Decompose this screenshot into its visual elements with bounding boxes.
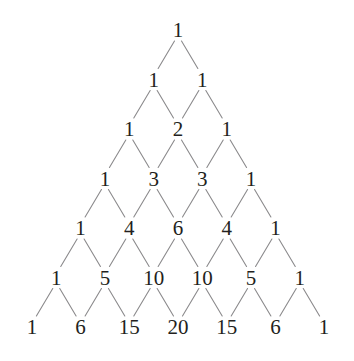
- pascal-number-r3-c3: 1: [246, 168, 257, 189]
- pascal-number-r5-c5: 1: [295, 267, 306, 288]
- pascal-number-r5-c2: 10: [143, 267, 164, 288]
- pascal-number-r3-c1: 3: [148, 168, 159, 189]
- pascal-number-r2-c2: 1: [221, 119, 232, 140]
- pascal-number-r4-c3: 4: [221, 218, 232, 239]
- pascal-number-r6-c0: 1: [27, 317, 38, 338]
- pascal-number-r4-c1: 4: [124, 218, 135, 239]
- pascal-number-r5-c3: 10: [192, 267, 213, 288]
- pascal-number-r6-c1: 6: [75, 317, 86, 338]
- pascal-number-r0-c0: 1: [173, 20, 184, 41]
- pascals-triangle-figure: 111121133114641151010511615201561: [0, 0, 354, 361]
- pascal-number-r2-c1: 2: [173, 119, 184, 140]
- pascal-number-r6-c4: 15: [216, 317, 237, 338]
- pascal-number-r6-c6: 1: [319, 317, 330, 338]
- pascal-number-r6-c3: 20: [168, 317, 189, 338]
- pascal-number-r3-c2: 3: [197, 168, 208, 189]
- pascal-number-r5-c0: 1: [51, 267, 62, 288]
- pascal-number-r4-c4: 1: [270, 218, 281, 239]
- pascal-number-r6-c5: 6: [270, 317, 281, 338]
- pascal-number-r4-c0: 1: [75, 218, 86, 239]
- triangle-nodes-layer: 111121133114641151010511615201561: [0, 0, 354, 361]
- pascal-number-r4-c2: 6: [173, 218, 184, 239]
- pascal-number-r5-c1: 5: [100, 267, 111, 288]
- pascal-number-r3-c0: 1: [100, 168, 111, 189]
- pascal-number-r1-c0: 1: [148, 69, 159, 90]
- pascal-number-r2-c0: 1: [124, 119, 135, 140]
- pascal-number-r6-c2: 15: [119, 317, 140, 338]
- pascal-number-r5-c4: 5: [246, 267, 257, 288]
- pascal-number-r1-c1: 1: [197, 69, 208, 90]
